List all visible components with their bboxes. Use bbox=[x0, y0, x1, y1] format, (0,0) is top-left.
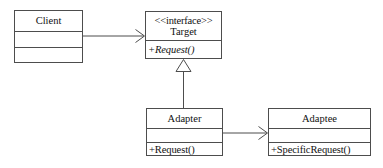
class-box-target[interactable]: <<interface>> Target +Request() bbox=[145, 11, 222, 59]
class-name-target: Target bbox=[170, 26, 196, 37]
class-title-client: Client bbox=[15, 11, 82, 31]
class-operations-text-adaptee: +SpecificRequest() bbox=[271, 144, 350, 155]
class-operations-target: +Request() bbox=[146, 40, 221, 58]
class-box-client[interactable]: Client bbox=[14, 10, 83, 63]
class-name-adaptee: Adaptee bbox=[302, 113, 337, 124]
class-name-adapter: Adapter bbox=[168, 113, 202, 124]
class-attributes-adapter bbox=[147, 128, 222, 142]
class-operations-client bbox=[15, 47, 82, 62]
class-operations-text-target: +Request() bbox=[148, 44, 194, 55]
class-box-adapter[interactable]: Adapter +Request() bbox=[146, 108, 223, 156]
class-stereotype-target: <<interface>> bbox=[155, 15, 213, 26]
class-attributes-adaptee bbox=[269, 128, 370, 142]
relationship-adapter-target bbox=[176, 60, 191, 109]
uml-class-diagram: Client <<interface>> Target +Request() A… bbox=[0, 0, 383, 168]
class-operations-text-adapter: +Request() bbox=[149, 144, 195, 155]
class-name-client: Client bbox=[36, 15, 62, 26]
class-operations-adapter: +Request() bbox=[147, 142, 222, 155]
class-title-adapter: Adapter bbox=[147, 109, 222, 128]
relationship-client-target bbox=[83, 30, 145, 43]
class-title-adaptee: Adaptee bbox=[269, 109, 370, 128]
class-box-adaptee[interactable]: Adaptee +SpecificRequest() bbox=[268, 108, 371, 156]
class-title-target: <<interface>> Target bbox=[146, 12, 221, 40]
relationship-adapter-adaptee bbox=[223, 127, 268, 140]
class-attributes-client bbox=[15, 31, 82, 47]
class-operations-adaptee: +SpecificRequest() bbox=[269, 142, 370, 155]
